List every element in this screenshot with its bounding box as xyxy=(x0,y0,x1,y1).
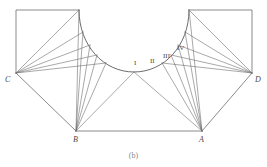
fan-line-c-1 xyxy=(16,10,79,73)
fan-lines-from-c xyxy=(16,10,106,73)
arc-label-ii: II xyxy=(150,58,155,65)
vertex-label-d: D xyxy=(255,76,261,84)
arc-label-iii: III xyxy=(163,53,170,60)
vertex-label-c: C xyxy=(5,76,10,84)
fan-line-a-6 xyxy=(134,72,202,131)
edge-d-to-a xyxy=(202,73,252,131)
fan-lines-from-a xyxy=(134,10,202,131)
arc-label-iv: IV xyxy=(177,45,184,52)
fan-line-a-1 xyxy=(189,10,202,131)
fan-lines-from-b xyxy=(76,10,134,131)
fan-line-b-6 xyxy=(76,72,134,131)
fan-line-a-4 xyxy=(171,55,202,131)
vertex-label-a: A xyxy=(199,136,204,144)
fan-line-d-1 xyxy=(189,10,252,73)
edge-c-to-b xyxy=(16,73,76,131)
fan-line-a-3 xyxy=(178,45,202,131)
arc-label-i: I xyxy=(134,60,136,67)
figure-caption: (b) xyxy=(0,152,267,160)
geometric-diagram xyxy=(0,0,267,167)
vertex-label-b: B xyxy=(73,136,78,144)
fan-lines-from-d xyxy=(162,10,252,73)
baseline-group xyxy=(16,73,252,131)
fan-line-b-5 xyxy=(76,63,106,131)
figure-container: C D B A I II III IV (b) xyxy=(0,0,267,167)
